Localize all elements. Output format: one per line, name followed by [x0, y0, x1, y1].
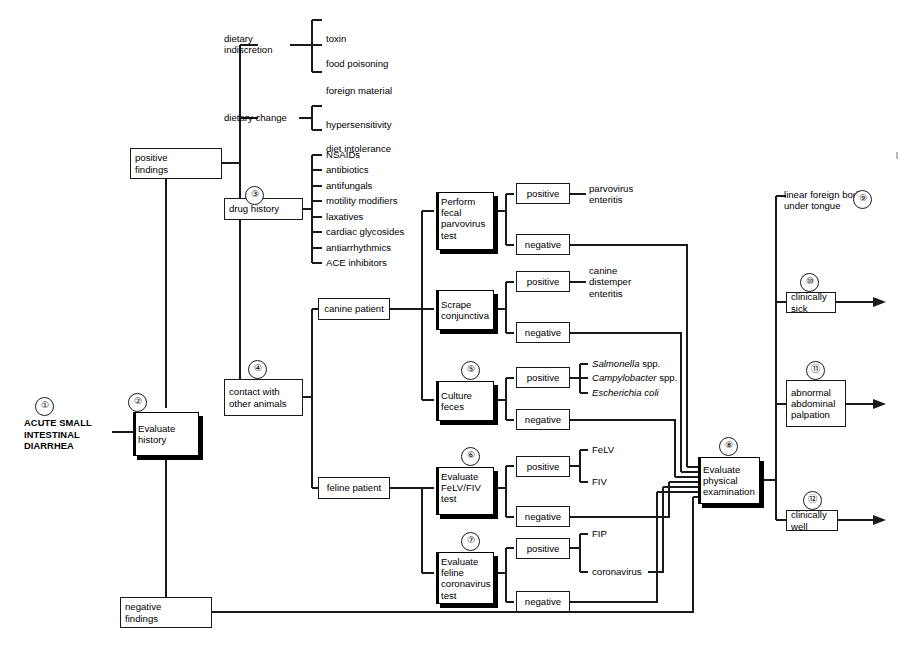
leaf-drug-history-2: antifungals — [326, 180, 372, 191]
node-perform-fecal-parvovirus-test-label: Performfecalparvovirustest — [441, 196, 485, 241]
result-coronavirus-positive-label: positive — [527, 543, 560, 554]
label-dietary-indiscretion: dietaryindiscretion — [224, 33, 273, 56]
result-coronavirus-positive[interactable]: positive — [516, 538, 570, 559]
node-feline-patient[interactable]: feline patient — [318, 477, 390, 499]
diagnosis-parvovirus-enteritis-line1: parvovirus — [589, 183, 633, 194]
step-number-3: ③ — [245, 186, 264, 205]
leaf-drug-history-6: antiarrhythmics — [326, 242, 391, 253]
diagnosis-canine-distemper-enteritis: canine distemper enteritis — [589, 265, 631, 299]
result-conjunctiva-negative[interactable]: negative — [516, 322, 570, 343]
diagnosis-canine-distemper-line3: enteritis — [589, 288, 631, 299]
result-parvo-negative[interactable]: negative — [516, 234, 570, 255]
step-number-1: ① — [35, 397, 54, 416]
organism-campylobacter-suffix: spp. — [657, 372, 678, 383]
result-coronavirus-negative[interactable]: negative — [516, 591, 570, 612]
result-culture-positive[interactable]: positive — [516, 367, 570, 388]
node-perform-fecal-parvovirus-test[interactable]: Performfecalparvovirustest — [436, 192, 494, 250]
leaf-drug-history-1: antibiotics — [326, 164, 369, 175]
result-parvo-positive[interactable]: positive — [516, 183, 570, 204]
node-negative-findings-label: negativefindings — [125, 601, 161, 623]
node-evaluate-felv-fiv-test-label: EvaluateFeLV/FIVtest — [441, 471, 481, 505]
organism-campylobacter-genus: Campylobacter — [592, 372, 657, 383]
node-positive-findings-label: positivefindings — [135, 152, 168, 174]
node-evaluate-physical-examination[interactable]: Evaluatephysicalexamination — [698, 457, 760, 504]
result-felv-positive[interactable]: positive — [516, 456, 570, 477]
organism-campylobacter: Campylobacter spp. — [592, 372, 677, 383]
leaf-drug-history-7: ACE inhibitors — [326, 257, 387, 268]
outcome-abnormal-abdominal-palpation[interactable]: abnormalabdominalpalpation — [786, 380, 846, 427]
label-dietary-change: dietary change — [224, 112, 287, 123]
node-canine-patient[interactable]: canine patient — [318, 298, 390, 320]
result-culture-negative[interactable]: negative — [516, 409, 570, 430]
organism-escherichia-coli: Escherichia coli — [592, 387, 659, 398]
leaf-drug-history-0: NSAIDs — [326, 149, 360, 160]
node-feline-patient-label: feline patient — [327, 482, 381, 493]
diagnosis-canine-distemper-line1: canine — [589, 265, 631, 276]
entry-title: ACUTE SMALL INTESTINAL DIARRHEA — [24, 418, 92, 453]
result-conjunctiva-positive[interactable]: positive — [516, 271, 570, 292]
leaf-dietary-indiscretion-0: toxin — [326, 33, 346, 44]
result-conjunctiva-negative-label: negative — [525, 327, 561, 338]
leaf-dietary-indiscretion-2: foreign material — [326, 85, 392, 96]
node-contact-other-animals[interactable]: contact withother animals — [224, 379, 303, 416]
result-coronavirus-negative-label: negative — [525, 596, 561, 607]
step-number-5: ⑤ — [461, 361, 480, 380]
step-number-4: ④ — [248, 360, 267, 379]
organism-salmonella-suffix: spp. — [639, 358, 660, 369]
node-culture-feces-label: Culturefeces — [441, 390, 472, 412]
result-leaf-fip: FIP — [592, 528, 607, 539]
step-number-2: ② — [128, 393, 147, 412]
node-evaluate-feline-coronavirus-test-label: Evaluatefelinecoronavirustest — [441, 556, 491, 601]
outcome-clinically-sick[interactable]: clinically sick — [786, 292, 836, 313]
result-parvo-positive-label: positive — [527, 188, 560, 199]
result-felv-negative[interactable]: negative — [516, 506, 570, 527]
outcome-clinically-well[interactable]: clinically well — [786, 510, 838, 531]
node-scrape-conjunctiva[interactable]: Scrapeconjunctiva — [436, 290, 494, 330]
node-evaluate-felv-fiv-test[interactable]: EvaluateFeLV/FIVtest — [436, 467, 494, 515]
node-negative-findings[interactable]: negativefindings — [120, 597, 212, 628]
step-number-11: ⑪ — [806, 361, 825, 380]
node-evaluate-history[interactable]: Evaluatehistory — [133, 412, 199, 456]
node-positive-findings[interactable]: positivefindings — [130, 148, 222, 179]
diagnosis-parvovirus-enteritis-line2: enteritis — [589, 194, 633, 205]
step-number-8: ⑧ — [719, 437, 738, 456]
leaf-dietary-indiscretion-1: food poisoning — [326, 58, 388, 69]
step-number-9: ⑨ — [853, 190, 872, 209]
page-speck — [896, 152, 898, 159]
result-parvo-negative-label: negative — [525, 239, 561, 250]
node-drug-history[interactable]: drug history — [224, 198, 303, 220]
diagnosis-parvovirus-enteritis: parvovirus enteritis — [589, 183, 633, 206]
step-number-6: ⑥ — [461, 447, 480, 466]
node-evaluate-feline-coronavirus-test[interactable]: Evaluatefelinecoronavirustest — [436, 552, 494, 604]
result-culture-positive-label: positive — [527, 372, 560, 383]
node-culture-feces[interactable]: Culturefeces — [436, 381, 494, 421]
leaf-drug-history-3: motility modifiers — [326, 195, 397, 206]
node-drug-history-label: drug history — [229, 203, 279, 214]
node-evaluate-history-label: Evaluatehistory — [138, 423, 175, 445]
entry-title-line3: DIARRHEA — [24, 441, 92, 453]
node-evaluate-physical-examination-label: Evaluatephysicalexamination — [703, 464, 755, 498]
node-contact-other-animals-label: contact withother animals — [229, 386, 287, 408]
leaf-dietary-change-0: hypersensitivity — [326, 119, 392, 130]
result-culture-negative-label: negative — [525, 414, 561, 425]
node-scrape-conjunctiva-label: Scrapeconjunctiva — [441, 299, 489, 321]
organism-salmonella-genus: Salmonella — [592, 358, 639, 369]
node-canine-patient-label: canine patient — [324, 303, 384, 314]
leaf-drug-history-4: laxatives — [326, 211, 363, 222]
outcome-clinically-well-label: clinically well — [791, 509, 833, 531]
result-leaf-coronavirus: coronavirus — [592, 566, 642, 577]
diagram-canvas: ① ACUTE SMALL INTESTINAL DIARRHEA ② Eval… — [0, 0, 923, 660]
outcome-abnormal-abdominal-palpation-label: abnormalabdominalpalpation — [791, 387, 835, 421]
step-number-10: ⑩ — [800, 273, 819, 292]
step-number-7: ⑦ — [461, 532, 480, 551]
result-felv-positive-label: positive — [527, 461, 560, 472]
outcome-linear-foreign-body: linear foreign bodyunder tongue — [784, 189, 863, 212]
result-leaf-fiv: FIV — [592, 476, 607, 487]
outcome-clinically-sick-label: clinically sick — [791, 291, 831, 313]
result-conjunctiva-positive-label: positive — [527, 276, 560, 287]
result-felv-negative-label: negative — [525, 511, 561, 522]
diagnosis-canine-distemper-line2: distemper — [589, 276, 631, 287]
leaf-drug-history-5: cardiac glycosides — [326, 226, 404, 237]
entry-title-line2: INTESTINAL — [24, 430, 92, 442]
entry-title-line1: ACUTE SMALL — [24, 418, 92, 430]
